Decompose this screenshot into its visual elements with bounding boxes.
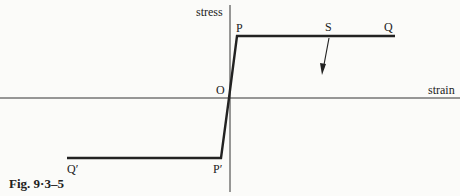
origin-label: O: [216, 84, 225, 96]
point-s-label: S: [325, 21, 332, 33]
stress-axis-label: stress: [196, 6, 223, 18]
unloading-arrow-head: [320, 63, 326, 75]
figure-caption: Fig. 9·3–5: [9, 176, 64, 192]
point-p-label: P: [236, 22, 243, 34]
point-q-prime-label: Q′: [67, 163, 78, 175]
upper-curve-o-p-q: [229, 36, 395, 98]
point-q-label: Q: [384, 21, 393, 33]
strain-axis-label: strain: [428, 84, 455, 96]
point-p-prime-label: P′: [213, 163, 222, 175]
lower-curve-o-p-prime-q-prime: [67, 98, 229, 158]
